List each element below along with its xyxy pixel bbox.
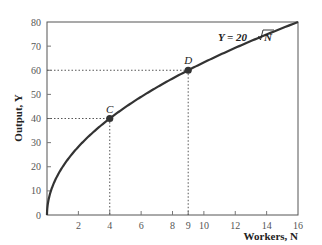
production-curve [47,22,298,215]
y-tick-label: 10 [31,185,41,196]
x-tick-label: 4 [107,220,112,231]
x-tick-label: 10 [199,220,209,231]
x-tick-label: 9 [186,220,191,231]
x-tick-label: 8 [170,220,175,231]
y-tick-label: 70 [31,41,41,52]
y-tick-label: 50 [31,89,41,100]
plot-frame [47,22,298,215]
y-axis-title: Output, Y [12,94,24,141]
point-c-marker [106,115,113,122]
y-tick-label: 80 [31,17,41,28]
x-axis-title: Workers, N [244,230,298,242]
y-tick-label: 0 [36,210,41,221]
point-d-marker [185,67,192,74]
point-c-label: C [106,103,114,115]
equation-label: Y = 20 [218,31,248,43]
x-tick-label: 2 [76,220,81,231]
y-tick-label: 30 [31,137,41,148]
production-function-chart: 01020304050607080 2468910121416 CD Y = 2… [0,0,322,245]
point-d-label: D [183,54,192,66]
y-tick-label: 40 [31,113,41,124]
y-tick-label: 20 [31,161,41,172]
x-tick-label: 6 [139,220,144,231]
y-tick-label: 60 [31,65,41,76]
equation-var: N [263,31,273,43]
x-tick-label: 12 [230,220,240,231]
dotted-guide-lines [47,70,188,215]
